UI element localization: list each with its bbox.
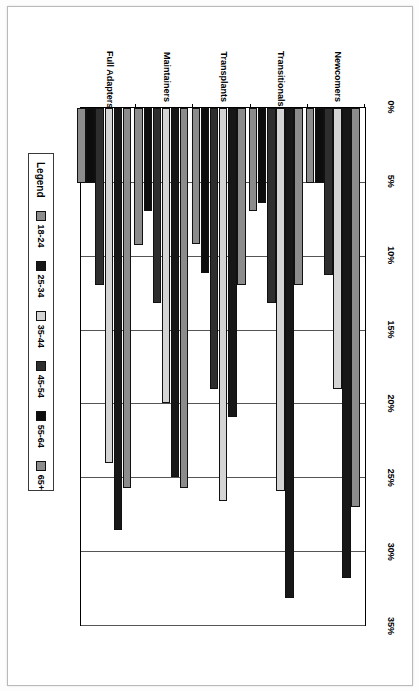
bar-group: [308, 108, 365, 625]
bar-transitionals-25-34: [285, 108, 294, 598]
bar-maintainers-45-54: [153, 108, 162, 303]
x-tick-label: 10%: [386, 246, 396, 264]
category-tick: [192, 104, 193, 108]
legend-swatch-icon: [36, 311, 46, 321]
legend-label: 35-44: [36, 325, 46, 348]
scanned-page: 0%5%10%15%20%25%30%35% NewcomersTransiti…: [0, 0, 419, 691]
x-tick-label: 30%: [386, 543, 396, 561]
bar-newcomers-25-34: [342, 108, 351, 578]
bar-transitionals-55-64: [258, 108, 267, 203]
legend-entry-55-64: 55-64: [36, 411, 46, 448]
legend-title: Legend: [36, 162, 47, 198]
x-tick-label: 15%: [386, 320, 396, 338]
bar-maintainers-18-24: [180, 108, 189, 488]
bar-newcomers-18-24: [352, 108, 361, 507]
bar-transplants-45-54: [210, 108, 219, 389]
category-tick: [135, 104, 136, 108]
bar-full-adapters-25-34: [114, 108, 123, 530]
legend-entry-25-34: 25-34: [36, 261, 46, 298]
legend-label: 65+: [36, 475, 46, 490]
bar-newcomers-55-64: [315, 108, 324, 183]
legend-label: 55-64: [36, 425, 46, 448]
x-tick-label: 0%: [386, 100, 396, 113]
category-tick: [307, 104, 308, 108]
legend-label: 45-54: [36, 375, 46, 398]
gridline: [81, 625, 365, 626]
bar-group: [136, 108, 193, 625]
x-tick-label: 35%: [386, 617, 396, 635]
bar-maintainers-55-64: [144, 108, 153, 211]
rotated-chart-container: 0%5%10%15%20%25%30%35% NewcomersTransiti…: [8, 7, 412, 685]
bar-full-adapters-18-24: [123, 108, 132, 488]
category-tick: [250, 104, 251, 108]
x-tick-label: 20%: [386, 395, 396, 413]
legend-entry-18-24: 18-24: [36, 211, 46, 248]
bar-newcomers-35-44: [333, 108, 342, 389]
bar-group: [79, 108, 136, 625]
legend-entry-list: 18-2425-3435-4445-5455-6465+: [36, 211, 46, 490]
chart-legend: Legend 18-2425-3435-4445-5455-6465+: [28, 153, 54, 491]
bar-transplants-18-24: [237, 108, 246, 285]
plot-area: [80, 107, 366, 626]
bar-transplants-55-64: [201, 108, 210, 273]
x-tick-label: 25%: [386, 469, 396, 487]
bar-transplants-35-44: [219, 108, 228, 501]
legend-swatch-icon: [36, 261, 46, 271]
bar-full-adapters-35-44: [105, 108, 114, 463]
bar-group: [251, 108, 308, 625]
bar-transplants-25-34: [228, 108, 237, 417]
category-label-full-adapters: Full Adapters: [105, 51, 115, 105]
bar-full-adapters-45-54: [95, 108, 104, 285]
chart-sheet: 0%5%10%15%20%25%30%35% NewcomersTransiti…: [7, 6, 413, 686]
category-label-transitionals: Transitionals: [276, 51, 286, 105]
bar-transitionals-18-24: [294, 108, 303, 285]
bar-full-adapters-65+: [77, 108, 86, 183]
category-tick: [364, 104, 365, 108]
category-label-maintainers: Maintainers: [162, 51, 172, 105]
category-label-transplants: Transplants: [219, 51, 229, 105]
bar-group: [193, 108, 250, 625]
legend-swatch-icon: [36, 361, 46, 371]
legend-swatch-icon: [36, 211, 46, 221]
bar-transitionals-35-44: [276, 108, 285, 491]
x-tick-label: 5%: [386, 175, 396, 188]
bar-transitionals-45-54: [267, 108, 276, 303]
bar-maintainers-35-44: [162, 108, 171, 403]
legend-entry-45-54: 45-54: [36, 361, 46, 398]
legend-label: 18-24: [36, 225, 46, 248]
bar-full-adapters-55-64: [86, 108, 95, 183]
grouped-bar-chart: 0%5%10%15%20%25%30%35% NewcomersTransiti…: [62, 51, 380, 639]
category-label-newcomers: Newcomers: [333, 51, 343, 105]
legend-entry-65+: 65+: [36, 461, 46, 490]
legend-label: 25-34: [36, 275, 46, 298]
legend-swatch-icon: [36, 461, 46, 471]
legend-swatch-icon: [36, 411, 46, 421]
bar-newcomers-45-54: [324, 108, 333, 275]
bar-maintainers-25-34: [171, 108, 180, 477]
legend-entry-35-44: 35-44: [36, 311, 46, 348]
